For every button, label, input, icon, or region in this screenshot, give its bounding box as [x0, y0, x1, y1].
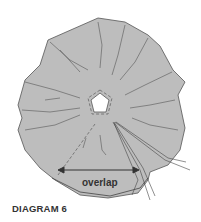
diagram-caption: DIAGRAM 6	[12, 203, 67, 214]
overlap-label: overlap	[82, 177, 118, 188]
gathered-fabric-circle-diagram: overlap	[0, 0, 201, 222]
